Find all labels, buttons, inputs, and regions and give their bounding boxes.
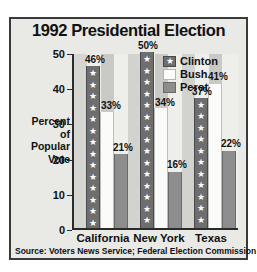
bar-california-clinton[interactable]: ★★★★★★★★★★★★★★ [86,66,100,228]
x-tick-label-california: California [73,232,133,244]
bar-california-perot[interactable] [114,154,128,228]
y-tick-label-50: 50 [53,48,65,60]
bar-newyork-perot[interactable] [168,172,182,228]
y-tick-mark [67,160,72,161]
x-tick-label-texas: Texas [185,232,237,244]
y-tick-mark [67,124,72,125]
legend-item-perot[interactable]: Perot [163,81,218,93]
legend-label-perot: Perot [180,81,208,93]
bar-group-california: ★★★★★★★★★★★★★★ 46% 33% 21% [80,54,130,228]
x-axis-line [72,228,238,230]
value-label-california-perot: 21% [113,142,133,153]
y-tick-label-30: 30 [53,118,65,130]
source-text: Voters News Service; Federal Election Co… [49,246,256,256]
chart-figure: 1992 Presidential Election Percent of Po… [9,17,248,260]
legend-item-clinton[interactable]: ★ Clinton [163,55,218,67]
chart-legend: ★ Clinton Bush Perot [163,55,218,94]
y-tick-mark [67,230,72,231]
value-label-california-bush: 33% [101,100,121,111]
value-label-california-clinton: 46% [85,54,105,65]
value-label-newyork-perot: 16% [167,159,187,170]
y-tick-label-0: 0 [59,224,65,236]
chart-source: Source: Voters News Service; Federal Ele… [15,246,256,256]
star-icon: ★ [164,55,175,68]
value-label-texas-perot: 22% [221,138,241,149]
bar-texas-clinton[interactable]: ★★★★★★★★★★★ [194,98,208,228]
y-axis-line [72,54,74,230]
star-pattern: ★★★★★★★★★★★★★★ [87,68,99,228]
x-tick-label-newyork: New York [129,232,189,244]
chart-title: 1992 Presidential Election [11,21,246,40]
star-pattern: ★★★★★★★★★★★★★★★ [141,54,153,228]
bar-texas-perot[interactable] [222,151,236,228]
legend-swatch-bush [163,69,176,80]
y-tick-mark [67,54,72,55]
bar-texas-bush[interactable] [208,84,222,228]
legend-label-bush: Bush [180,68,208,80]
legend-label-clinton: Clinton [180,55,218,67]
y-tick-mark [67,195,72,196]
value-label-newyork-bush: 34% [155,97,175,108]
y-tick-mark [67,89,72,90]
y-axis-title-line-3: Popular [16,140,70,153]
value-label-newyork-clinton: 50% [138,40,158,51]
bar-california-bush[interactable] [100,112,114,228]
legend-swatch-perot [163,82,176,93]
bar-newyork-bush[interactable] [154,108,168,228]
legend-swatch-clinton: ★ [163,56,176,67]
star-pattern: ★★★★★★★★★★★ [195,100,207,228]
y-tick-label-40: 40 [53,83,65,95]
bar-newyork-clinton[interactable]: ★★★★★★★★★★★★★★★ [140,52,154,228]
y-tick-label-20: 20 [53,154,65,166]
source-prefix: Source: [15,246,47,256]
y-tick-label-10: 10 [53,189,65,201]
legend-item-bush[interactable]: Bush [163,68,218,80]
